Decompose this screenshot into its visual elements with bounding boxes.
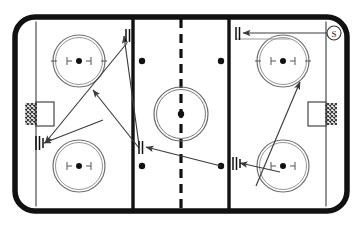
goal-right xyxy=(308,102,337,126)
shooter-label-text: S xyxy=(331,29,336,39)
neutral-dot-top-right xyxy=(218,58,224,64)
center-ice-dot xyxy=(178,111,184,117)
goal-left xyxy=(25,102,54,126)
faceoff-dot-top-left xyxy=(76,58,82,64)
rink-canvas: S xyxy=(0,0,362,227)
faceoff-dot-bottom-right xyxy=(280,163,286,169)
neutral-dot-bottom-left xyxy=(139,163,145,169)
faceoff-dot-bottom-left xyxy=(76,163,82,169)
faceoff-dot-top-right xyxy=(280,58,286,64)
shooter-label: S xyxy=(327,26,341,40)
hockey-rink-diagram: S xyxy=(0,0,362,227)
neutral-dot-top-left xyxy=(139,58,145,64)
